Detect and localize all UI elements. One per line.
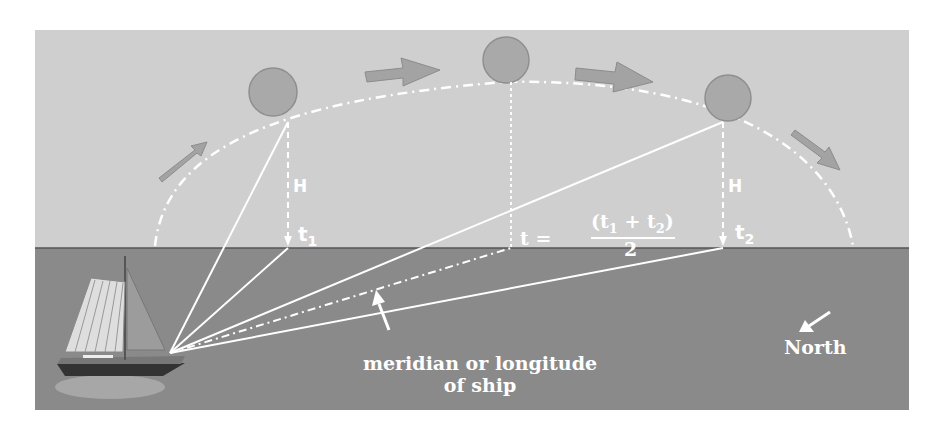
arrow-setting-icon [791,130,840,170]
label-north: North [784,336,847,358]
sun-position-1-icon [249,68,297,116]
label-h-right: H [728,176,742,196]
meridian-label-line1: meridian or longitude [355,352,605,374]
t1-symbol: t [298,222,308,246]
north-arrow-icon [799,320,814,332]
numerator-sub2: 2 [656,221,665,236]
t2-subscript: 2 [745,231,755,247]
sailing-ship-icon [55,256,185,399]
label-t-equals: t = [520,227,551,249]
label-t2: t2 [735,220,754,247]
diagram-panel: H H t1 t2 t = (t1 + t2) 2 meridian or lo… [35,30,909,410]
numerator-close: ) [665,210,674,232]
label-h-left: H [293,176,307,196]
arrow-down-icon [284,236,292,246]
arrow-down-icon [719,236,727,246]
t1-subscript: 1 [308,233,318,249]
arrow-up-icon [372,290,385,306]
arrow-rising-icon [159,142,207,182]
formula-denominator: 2 [624,238,637,260]
t2-symbol: t [735,220,745,244]
numerator-open: (t [591,210,609,232]
meridian-pointer [379,304,389,330]
meridian-label-line2: of ship [355,374,605,396]
arrow-right-icon [365,58,440,86]
numerator-plus: + t [624,210,655,232]
arrow-right-icon [575,62,653,92]
formula-numerator: (t1 + t2) [591,210,674,236]
label-t1: t1 [298,222,317,249]
sun-position-2-icon [705,75,751,121]
label-meridian: meridian or longitude of ship [355,352,605,396]
sun-noon-icon [483,37,529,83]
north-arrow-shaft [809,312,830,326]
numerator-sub1: 1 [609,221,618,236]
